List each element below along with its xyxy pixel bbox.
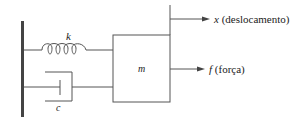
displacement-arrow <box>170 5 210 35</box>
fixed-wall <box>21 21 24 117</box>
mass-spring-damper-diagram: k c m x (deslocamento) f (força) <box>0 0 290 126</box>
spring-label: k <box>66 30 72 42</box>
damper <box>24 72 113 101</box>
displacement-label: x (deslocamento) <box>213 13 290 26</box>
spring <box>24 44 113 55</box>
force-arrow <box>170 67 205 72</box>
force-label: f (força) <box>209 63 245 76</box>
mass-label: m <box>138 63 145 74</box>
damper-label: c <box>56 102 61 113</box>
